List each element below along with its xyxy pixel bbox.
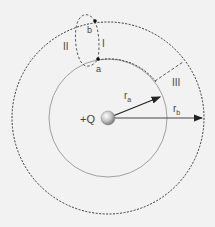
- path-two-label: II: [63, 41, 69, 52]
- path-one: [95, 21, 99, 59]
- diagram-canvas: +Q a b I II III ra rb: [0, 0, 215, 227]
- point-a-label: a: [96, 64, 101, 74]
- path-three-label: III: [172, 77, 180, 88]
- radius-b-label: rb: [173, 103, 180, 116]
- radius-a-arrow: [108, 97, 160, 118]
- point-b: [93, 19, 97, 23]
- field-diagram: +Q a b I II III ra rb: [0, 0, 215, 227]
- charge-sphere: [101, 111, 115, 125]
- radius-a-label: ra: [124, 90, 131, 103]
- charge-label: +Q: [80, 113, 95, 125]
- point-b-label: b: [87, 25, 92, 35]
- path-one-label: I: [102, 38, 105, 49]
- point-a: [96, 57, 100, 61]
